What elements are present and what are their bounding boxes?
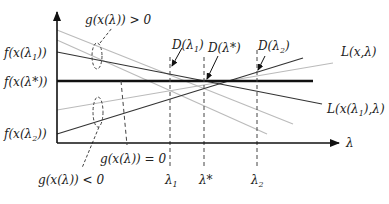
label-f-lambda-star: f(x(λ*)) (3, 75, 48, 89)
light-line-L-x-lambda (57, 63, 333, 110)
label-D-lambda2: D(λ2) (257, 39, 290, 55)
label-D-lambda1: D(λ1) (171, 38, 204, 54)
label-g-negative: g(x(λ)) < 0 (38, 173, 104, 187)
label-g-positive: g(x(λ)) > 0 (85, 13, 151, 27)
label-L-x-lambda1: L(x(λ1),λ) (326, 102, 385, 118)
g-negative-ellipse (93, 97, 103, 127)
label-L-x-lambda: L(x,λ) (340, 45, 377, 59)
tick-lambda2: λ2 (250, 173, 264, 189)
D-lambda-star-arrow (207, 56, 218, 79)
label-f-lambda2: f(x(λ2)) (3, 127, 47, 143)
label-f-lambda1: f(x(λ1)) (3, 46, 47, 62)
tick-lambda1: λ1 (164, 173, 178, 189)
x-axis-label: λ (345, 136, 354, 150)
g-positive-leader (100, 28, 112, 43)
dark-line-f-lambda2 (57, 58, 303, 134)
dark-line-L-x-lambda1 (57, 52, 322, 104)
tick-lambda-star: λ* (198, 173, 213, 187)
g-negative-leader (82, 127, 99, 168)
label-D-lambda-star: D(λ*) (207, 41, 241, 55)
label-g-zero: g(x(λ)) = 0 (100, 152, 166, 166)
D-lambda2-arrow (258, 56, 265, 70)
lagrangian-dual-diagram: f(x(λ1)) f(x(λ*)) f(x(λ2)) λ λ1 λ* λ2 g(… (0, 0, 389, 204)
